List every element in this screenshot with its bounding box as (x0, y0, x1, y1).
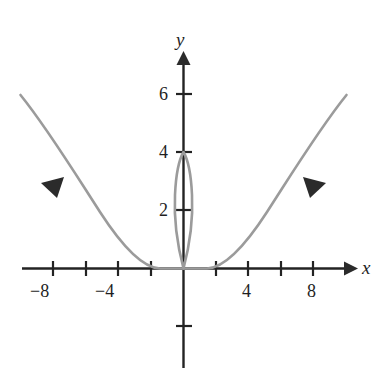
coordinate-plot (0, 0, 384, 371)
left-branch-arrowhead (41, 177, 64, 198)
curve-outer-left (21, 95, 184, 269)
curve-outer-right (184, 95, 347, 269)
x-tick-label-8: 8 (307, 282, 316, 300)
graph-figure: y x −8 −4 4 8 6 4 2 (0, 0, 384, 371)
y-tick-label-2: 2 (159, 201, 168, 219)
x-axis-label: x (362, 258, 370, 277)
x-tick-label-4: 4 (242, 282, 251, 300)
x-tick-label--4: −4 (95, 282, 114, 300)
y-axis-label: y (176, 30, 184, 49)
y-tick-label-6: 6 (159, 85, 168, 103)
y-axis-arrowhead (177, 51, 191, 65)
y-tick-label-4: 4 (159, 143, 168, 161)
x-tick-label--8: −8 (30, 282, 49, 300)
right-branch-arrowhead (303, 177, 326, 198)
x-axis-arrowhead (344, 262, 358, 276)
